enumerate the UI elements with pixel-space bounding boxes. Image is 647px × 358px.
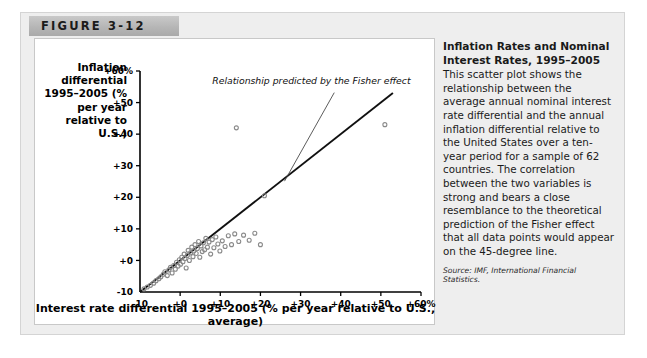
figure-banner: FIGURE 3-12 xyxy=(29,16,179,36)
data-point xyxy=(237,239,241,243)
data-point xyxy=(187,258,191,262)
caption-body: This scatter plot shows the relationship… xyxy=(443,68,615,258)
y-axis-tick-label: +40 xyxy=(113,129,133,139)
figure-card: FIGURE 3-12 Inflation differential 1995–… xyxy=(20,12,625,335)
data-point xyxy=(205,245,209,249)
data-point xyxy=(194,251,198,255)
y-axis-tick-label: +60% xyxy=(104,66,133,76)
figure-number-label: FIGURE 3-12 xyxy=(41,19,146,33)
annotation-leader-line xyxy=(285,93,335,182)
data-point xyxy=(234,126,238,130)
annotation-label: Relationship predicted by the Fisher eff… xyxy=(212,75,411,86)
scatter-plot: -10+0+10+20+30+40+50+60%-10+0+10+20+30+4… xyxy=(35,39,436,326)
chart-panel: Inflation differential 1995–2005 (% per … xyxy=(34,38,435,325)
data-point xyxy=(212,246,216,250)
data-point xyxy=(230,243,234,247)
scatter-plot-svg: -10+0+10+20+30+40+50+60%-10+0+10+20+30+4… xyxy=(35,39,436,326)
data-point xyxy=(216,242,220,246)
data-point xyxy=(170,271,174,275)
y-axis-tick-label: +20 xyxy=(113,192,133,202)
y-axis-tick-label: +30 xyxy=(113,161,133,171)
data-point xyxy=(193,243,197,247)
data-point xyxy=(220,239,224,243)
data-point xyxy=(242,233,246,237)
data-point xyxy=(218,249,222,253)
data-point xyxy=(165,274,169,278)
data-point xyxy=(226,234,230,238)
fisher-effect-reference-line xyxy=(140,93,393,292)
data-point xyxy=(197,239,201,243)
y-axis-tick-label: +50 xyxy=(113,98,133,108)
caption-title: Inflation Rates and Nominal Interest Rat… xyxy=(443,40,615,67)
figure-caption: Inflation Rates and Nominal Interest Rat… xyxy=(443,40,615,285)
x-axis-title: Interest rate differential 1995–2005 (% … xyxy=(35,302,436,328)
y-axis-tick-label: -10 xyxy=(117,287,133,297)
data-point xyxy=(233,232,237,236)
data-point xyxy=(198,255,202,259)
data-point xyxy=(223,245,227,249)
data-point xyxy=(258,243,262,247)
y-axis-tick-label: +0 xyxy=(119,256,133,266)
data-point xyxy=(184,266,188,270)
data-point xyxy=(214,235,218,239)
data-point xyxy=(253,231,257,235)
data-point xyxy=(247,238,251,242)
caption-source: Source: IMF, International Financial Sta… xyxy=(443,266,615,285)
y-axis-tick-label: +10 xyxy=(113,224,133,234)
data-point xyxy=(383,123,387,127)
data-point xyxy=(209,252,213,256)
